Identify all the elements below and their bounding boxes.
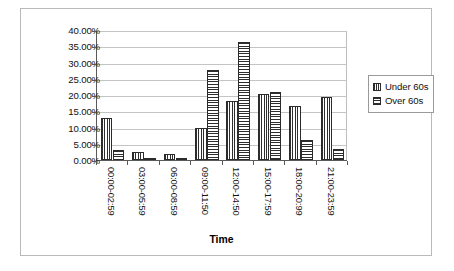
gridline: [97, 64, 347, 65]
bar-over-0[interactable]: [113, 150, 125, 160]
x-axis-category-label: 06:00-08:59: [169, 167, 179, 231]
y-axis-tick-mark: [92, 64, 96, 65]
y-axis-tick-label: 35.00%: [34, 42, 100, 52]
gridline: [97, 129, 347, 130]
gridline: [97, 47, 347, 48]
y-axis-tick-label: 40.00%: [34, 26, 100, 36]
x-axis-tick-mark: [253, 161, 254, 165]
bar-over-3[interactable]: [207, 70, 219, 160]
gridline: [97, 31, 347, 32]
x-axis-tick-mark: [159, 161, 160, 165]
y-axis-tick-mark: [92, 112, 96, 113]
bar-over-5[interactable]: [270, 92, 282, 160]
x-axis-tick-mark: [190, 161, 191, 165]
bar-under-2[interactable]: [164, 154, 176, 161]
y-axis-tick-label: 15.00%: [34, 107, 100, 117]
x-axis-category-label: 21:00-23:59: [326, 167, 336, 231]
bar-under-0[interactable]: [101, 118, 113, 160]
y-axis-tick-label: 5.00%: [34, 140, 100, 150]
y-axis-tick-label: 30.00%: [34, 59, 100, 69]
bar-over-6[interactable]: [301, 140, 313, 160]
bar-under-6[interactable]: [289, 106, 301, 160]
gridline: [97, 96, 347, 97]
legend-item-under-60s[interactable]: Under 60s: [373, 80, 428, 94]
y-axis-tick-label: 0.00%: [34, 156, 100, 166]
bar-under-3[interactable]: [195, 128, 207, 160]
legend-label-over-60s: Over 60s: [385, 96, 423, 106]
y-axis-tick-mark: [92, 129, 96, 130]
x-axis-category-label: 09:00-11:50: [200, 167, 210, 231]
legend-swatch-under-60s: [373, 83, 381, 91]
y-axis-tick-mark: [92, 96, 96, 97]
x-axis-category-label: 03:00-05:59: [137, 167, 147, 231]
legend-label-under-60s: Under 60s: [385, 82, 428, 92]
x-axis-category-label: 12:00-14:50: [231, 167, 241, 231]
chart-legend: Under 60s Over 60s: [368, 75, 434, 113]
bar-over-4[interactable]: [238, 42, 250, 160]
x-axis-tick-mark: [284, 161, 285, 165]
y-axis-tick-mark: [92, 47, 96, 48]
bar-over-7[interactable]: [333, 149, 345, 160]
x-axis-tick-mark: [222, 161, 223, 165]
bar-under-7[interactable]: [321, 97, 333, 160]
x-axis-category-label: 18:00-20:99: [294, 167, 304, 231]
x-axis-tick-mark: [96, 161, 97, 165]
plot-area: [96, 31, 347, 161]
bar-under-5[interactable]: [258, 94, 270, 160]
bar-over-1[interactable]: [144, 158, 156, 160]
x-axis-tick-mark: [347, 161, 348, 165]
legend-swatch-over-60s: [373, 97, 381, 105]
chart-frame: 40.00%35.00%30.00%25.00%20.00%15.00%10.0…: [20, 8, 432, 256]
y-axis-tick-mark: [92, 145, 96, 146]
bar-under-4[interactable]: [226, 101, 238, 160]
y-axis-tick-label: 10.00%: [34, 124, 100, 134]
y-axis-tick-label: 20.00%: [34, 91, 100, 101]
gridline: [97, 80, 347, 81]
x-axis-tick-mark: [316, 161, 317, 165]
y-axis-tick-label: 25.00%: [34, 75, 100, 85]
y-axis-tick-mark: [92, 31, 96, 32]
y-axis-tick-mark: [92, 80, 96, 81]
bar-over-2[interactable]: [176, 158, 188, 160]
bar-under-1[interactable]: [132, 152, 144, 160]
x-axis-category-label: 15:00-17:59: [263, 167, 273, 231]
gridline: [97, 112, 347, 113]
x-axis-category-label: 00:00-02:59: [106, 167, 116, 231]
x-axis-tick-mark: [127, 161, 128, 165]
legend-item-over-60s[interactable]: Over 60s: [373, 94, 428, 108]
x-axis-title: Time: [96, 234, 347, 245]
